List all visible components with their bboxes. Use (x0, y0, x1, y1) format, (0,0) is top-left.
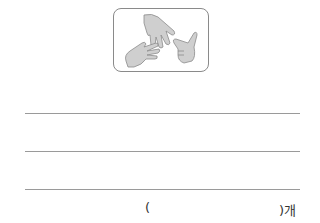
answer-line-3 (25, 189, 300, 190)
answer-open-paren: ( (145, 200, 150, 215)
paper-hand-icon (126, 42, 160, 67)
answer-unit-label: )개 (279, 200, 296, 219)
scissors-hand-icon (173, 32, 197, 63)
answer-line-2 (25, 151, 300, 152)
answer-line-1 (25, 113, 300, 114)
hand-gestures-figure (113, 8, 209, 72)
paper-hand-icon (144, 14, 175, 48)
